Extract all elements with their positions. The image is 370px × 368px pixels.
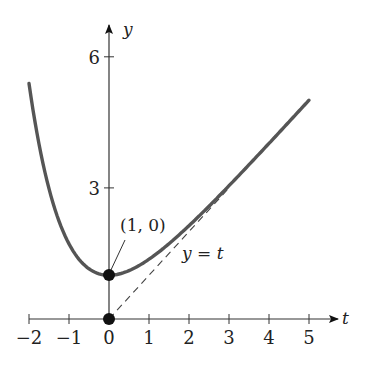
x-tick-label: 1 bbox=[143, 327, 154, 348]
y-ticks: 36 bbox=[89, 47, 114, 199]
y-axis-label: y bbox=[122, 19, 133, 39]
x-tick-label: −1 bbox=[56, 327, 83, 348]
x-tick-label: −2 bbox=[16, 327, 43, 348]
point-label-leader bbox=[110, 240, 125, 272]
x-tick-label: 2 bbox=[183, 327, 194, 348]
asymptote-label: y = t bbox=[181, 243, 224, 263]
origin-point bbox=[103, 313, 115, 325]
x-tick-label: 3 bbox=[223, 327, 234, 348]
x-tick-label: 5 bbox=[303, 327, 314, 348]
point-0-1 bbox=[103, 269, 115, 281]
curve bbox=[29, 84, 309, 276]
x-tick-label: 4 bbox=[263, 327, 274, 348]
x-tick-label: 0 bbox=[103, 327, 114, 348]
y-tick-label: 3 bbox=[89, 178, 100, 199]
point-label: (1, 0) bbox=[120, 215, 166, 235]
chart: t y −2−1012345 36 (1, 0) y = t bbox=[0, 0, 370, 368]
y-tick-label: 6 bbox=[89, 47, 100, 68]
t-axis-label: t bbox=[342, 308, 349, 328]
